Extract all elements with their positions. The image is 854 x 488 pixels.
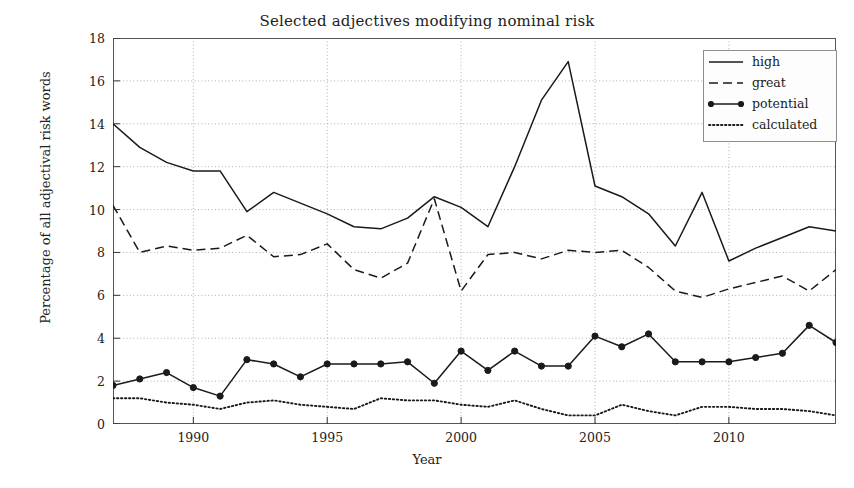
legend-marker [738, 100, 744, 106]
data-point [404, 359, 410, 365]
data-point [324, 361, 330, 367]
data-point [431, 380, 437, 386]
data-point [538, 363, 544, 369]
data-point [351, 361, 357, 367]
data-point [137, 376, 143, 382]
x-tick-label: 2010 [713, 430, 745, 445]
data-point [753, 354, 759, 360]
x-tick-label: 1990 [177, 430, 209, 445]
series-potential [113, 322, 836, 399]
data-point [699, 359, 705, 365]
y-tick-label: 8 [67, 245, 105, 260]
data-point [726, 359, 732, 365]
y-tick-label: 18 [67, 31, 105, 46]
data-point [592, 333, 598, 339]
legend-item-great[interactable]: great [704, 72, 836, 93]
data-point [113, 382, 116, 388]
y-tick-label: 14 [67, 116, 105, 131]
data-point [779, 350, 785, 356]
legend-swatch-high [704, 52, 748, 72]
legend-marker [708, 100, 714, 106]
data-point [190, 384, 196, 390]
series-calculated [113, 398, 836, 415]
data-point [458, 348, 464, 354]
data-point [271, 361, 277, 367]
legend-item-calculated[interactable]: calculated [704, 114, 836, 135]
data-point [297, 374, 303, 380]
legend-item-potential[interactable]: potential [704, 93, 836, 114]
legend-swatch-great [704, 73, 748, 93]
chart-figure: Selected adjectives modifying nominal ri… [0, 0, 854, 488]
data-point [672, 359, 678, 365]
data-point [565, 363, 571, 369]
x-tick-label: 1995 [311, 430, 343, 445]
series-line-great [113, 199, 836, 298]
data-point [244, 357, 250, 363]
y-axis-label: Percentage of all adjectival risk words [38, 3, 53, 393]
data-point [619, 344, 625, 350]
y-tick-label: 2 [67, 374, 105, 389]
y-tick-label: 12 [67, 159, 105, 174]
series-great [113, 199, 836, 298]
legend-label: high [748, 54, 780, 69]
legend-label: calculated [748, 117, 817, 132]
x-tick-label: 2000 [445, 430, 477, 445]
y-tick-label: 6 [67, 288, 105, 303]
legend-label: great [748, 75, 786, 90]
data-point [833, 339, 836, 345]
chart-legend: highgreatpotentialcalculated [703, 50, 837, 142]
data-point [645, 331, 651, 337]
legend-label: potential [748, 96, 808, 111]
data-point [163, 369, 169, 375]
legend-item-high[interactable]: high [704, 51, 836, 72]
data-point [378, 361, 384, 367]
data-point [485, 367, 491, 373]
data-point [806, 322, 812, 328]
legend-swatch-potential [704, 94, 748, 114]
y-tick-label: 10 [67, 202, 105, 217]
x-tick-label: 2005 [579, 430, 611, 445]
y-tick-label: 16 [67, 73, 105, 88]
y-tick-label: 4 [67, 331, 105, 346]
legend-swatch-calculated [704, 115, 748, 135]
data-point [217, 393, 223, 399]
series-line-calculated [113, 398, 836, 415]
data-point [512, 348, 518, 354]
x-axis-label: Year [0, 452, 854, 467]
y-tick-label: 0 [67, 417, 105, 432]
page-title: Selected adjectives modifying nominal ri… [0, 12, 854, 30]
